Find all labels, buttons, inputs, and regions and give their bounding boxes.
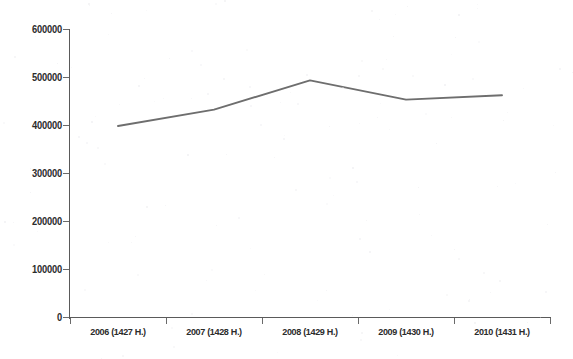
data-series-layer [0, 0, 573, 359]
series-line-path [118, 80, 502, 126]
line-chart-figure: 0100000200000300000400000500000600000 20… [0, 0, 573, 359]
